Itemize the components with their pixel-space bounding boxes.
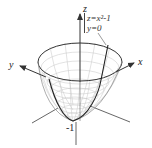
- equation-annotation: z=x²-1 y=0: [84, 13, 111, 33]
- vertex-label: -1: [66, 123, 74, 133]
- lower-axes: [32, 106, 130, 145]
- equation-line-1: z=x²-1: [87, 13, 111, 23]
- x-axis: [116, 63, 134, 72]
- parabola-curve-back: [101, 45, 108, 80]
- equation-line-2: y=0: [87, 23, 111, 33]
- y-axis-label: y: [9, 60, 13, 70]
- paraboloid-diagram: [0, 0, 152, 148]
- x-axis-label: x: [138, 57, 142, 67]
- paraboloid-figure: z y x -1 z=x²-1 y=0: [0, 0, 152, 148]
- annotation-leader: [98, 33, 106, 45]
